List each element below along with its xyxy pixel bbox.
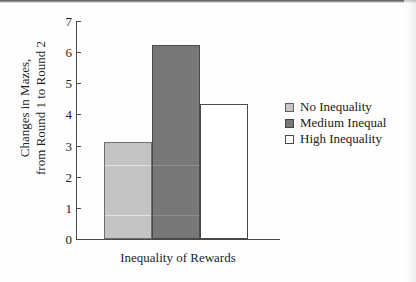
y-tick-label-0: 0 (46, 233, 72, 246)
y-axis-title-line-2: from Round 1 to Round 2 (33, 13, 49, 203)
bar-texture-grain (153, 46, 199, 238)
bar-texture-line (153, 215, 199, 216)
legend-swatch-icon-medium-inequality (285, 119, 294, 128)
bar-texture-line (105, 165, 151, 166)
y-tick-mark-0 (76, 239, 81, 240)
legend-item-medium-inequality[interactable]: Medium Inequal (285, 115, 416, 131)
legend-swatch-icon-no-inequality (285, 103, 294, 112)
x-axis-line (76, 239, 280, 240)
bar-texture-grain (105, 143, 151, 238)
y-tick-label-7: 7 (46, 15, 72, 28)
y-tick-label-2: 2 (46, 171, 72, 184)
x-axis-title: Inequality of Rewards (76, 250, 280, 265)
legend-item-no-inequality[interactable]: No Inequality (285, 99, 416, 115)
y-tick-label-5: 5 (46, 77, 72, 90)
bar-high-inequality[interactable] (200, 104, 248, 239)
figure-canvas: 7 6 5 4 3 2 1 0 Changes in Mazes, from R… (0, 0, 416, 282)
bar-no-inequality[interactable] (104, 142, 152, 239)
bar-texture-line (153, 165, 199, 166)
plot-area (76, 21, 280, 239)
legend-label-no-inequality: No Inequality (300, 100, 372, 114)
bar-medium-inequality[interactable] (152, 45, 200, 239)
legend-item-high-inequality[interactable]: High Inequality (285, 131, 416, 147)
chart-legend: No Inequality Medium Inequal High Inequa… (285, 99, 416, 147)
bar-texture-line (105, 215, 151, 216)
y-tick-label-3: 3 (46, 140, 72, 153)
y-tick-label-6: 6 (46, 46, 72, 59)
y-tick-label-4: 4 (46, 108, 72, 121)
y-axis-title: Changes in Mazes, from Round 1 to Round … (17, 13, 49, 203)
legend-swatch-icon-high-inequality (285, 135, 294, 144)
scan-edge-top (0, 0, 416, 3)
legend-label-medium-inequality: Medium Inequal (300, 116, 386, 130)
y-axis-title-line-1: Changes in Mazes, (17, 13, 33, 203)
legend-label-high-inequality: High Inequality (300, 132, 382, 146)
y-tick-label-1: 1 (46, 202, 72, 215)
